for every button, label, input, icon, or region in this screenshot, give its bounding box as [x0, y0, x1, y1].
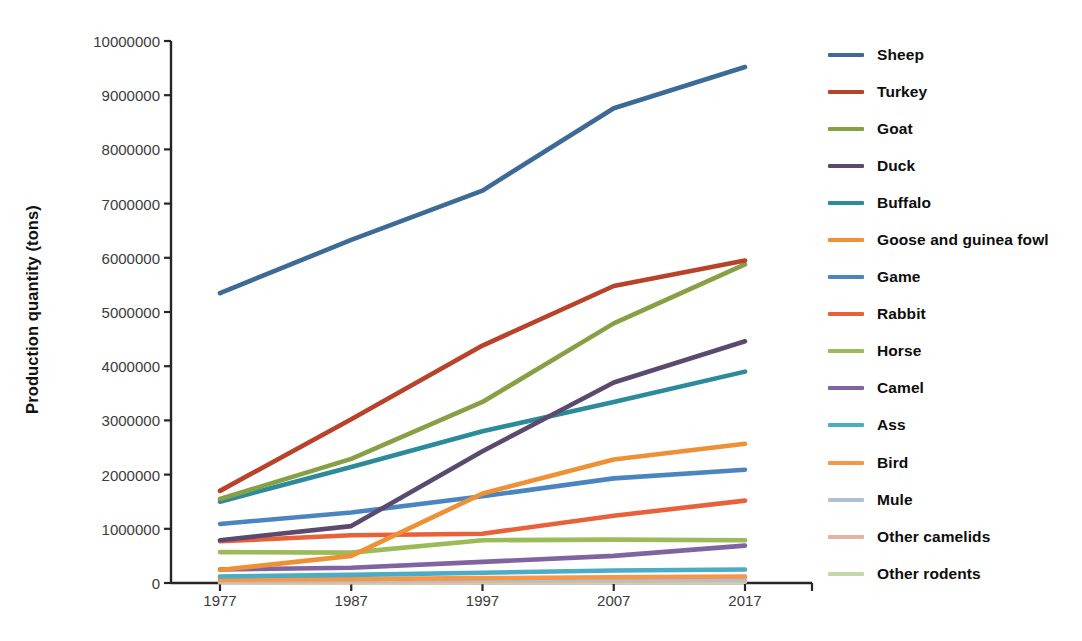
- series-line-goat: [220, 264, 745, 499]
- series-line-buffalo: [220, 372, 745, 502]
- legend-item[interactable]: Other camelids: [828, 518, 1080, 555]
- legend-item-label: Horse: [877, 342, 921, 360]
- legend-item[interactable]: Bird: [828, 444, 1080, 481]
- legend-item-label: Camel: [877, 379, 924, 397]
- legend-color-swatch-icon: [828, 201, 864, 205]
- legend-color-swatch-icon: [828, 238, 864, 242]
- y-axis-tick-label: 4000000: [52, 358, 160, 375]
- legend-item-label: Other camelids: [877, 528, 990, 546]
- legend-item[interactable]: Horse: [828, 333, 1080, 370]
- y-axis-tick-label: 7000000: [52, 195, 160, 212]
- legend-color-swatch-icon: [828, 572, 864, 576]
- legend-color-swatch-icon: [828, 164, 864, 168]
- x-axis-tick-label: 1997: [438, 592, 528, 609]
- legend-color-swatch-icon: [828, 90, 864, 94]
- y-axis-tick-label: 5000000: [52, 304, 160, 321]
- legend-item-label: Duck: [877, 157, 915, 175]
- chart-legend: SheepTurkeyGoatDuckBuffaloGoose and guin…: [828, 36, 1080, 592]
- legend-item[interactable]: Camel: [828, 370, 1080, 407]
- legend-color-swatch-icon: [828, 275, 864, 279]
- legend-item-label: Game: [877, 268, 920, 286]
- series-line-sheep: [220, 67, 745, 293]
- legend-color-swatch-icon: [828, 535, 864, 539]
- y-axis-tick-label: 9000000: [52, 87, 160, 104]
- series-line-game: [220, 470, 745, 524]
- legend-item-label: Goat: [877, 120, 913, 138]
- y-axis-tick-label: 2000000: [52, 466, 160, 483]
- legend-color-swatch-icon: [828, 386, 864, 390]
- legend-item-label: Bird: [877, 454, 908, 472]
- legend-item[interactable]: Sheep: [828, 36, 1080, 73]
- legend-item[interactable]: Ass: [828, 407, 1080, 444]
- series-line-turkey: [220, 261, 745, 491]
- legend-item[interactable]: Goose and guinea fowl: [828, 221, 1080, 258]
- legend-item-label: Mule: [877, 491, 913, 509]
- y-axis-tick-label: 1000000: [52, 520, 160, 537]
- x-axis-tick-label: 1987: [306, 592, 396, 609]
- legend-item[interactable]: Goat: [828, 110, 1080, 147]
- legend-item[interactable]: Other rodents: [828, 555, 1080, 592]
- legend-color-swatch-icon: [828, 498, 864, 502]
- legend-item-label: Other rodents: [877, 565, 981, 583]
- y-axis-tick-label: 6000000: [52, 249, 160, 266]
- legend-item[interactable]: Duck: [828, 147, 1080, 184]
- legend-item-label: Sheep: [877, 46, 924, 64]
- legend-item[interactable]: Turkey: [828, 73, 1080, 110]
- legend-color-swatch-icon: [828, 423, 864, 427]
- legend-color-swatch-icon: [828, 127, 864, 131]
- line-chart: Production quantity (tons) 0100000020000…: [0, 0, 1082, 641]
- x-axis-tick-label: 2007: [569, 592, 659, 609]
- legend-color-swatch-icon: [828, 53, 864, 57]
- legend-item-label: Turkey: [877, 83, 927, 101]
- legend-color-swatch-icon: [828, 461, 864, 465]
- y-axis-tick-label: 3000000: [52, 412, 160, 429]
- series-line-rabbit: [220, 501, 745, 542]
- legend-item-label: Ass: [877, 416, 906, 434]
- y-axis-tick-labels: 0100000020000003000000400000050000006000…: [0, 0, 160, 641]
- legend-item[interactable]: Mule: [828, 481, 1080, 518]
- legend-item-label: Rabbit: [877, 305, 926, 323]
- x-axis-tick-label: 1977: [175, 592, 265, 609]
- y-axis-tick-label: 0: [52, 575, 160, 592]
- legend-item-label: Goose and guinea fowl: [877, 231, 1049, 249]
- legend-color-swatch-icon: [828, 349, 864, 353]
- legend-item[interactable]: Game: [828, 259, 1080, 296]
- y-axis-tick-label: 8000000: [52, 141, 160, 158]
- legend-item[interactable]: Buffalo: [828, 184, 1080, 221]
- legend-item-label: Buffalo: [877, 194, 931, 212]
- series-line-camel: [220, 546, 745, 570]
- y-axis-tick-label: 10000000: [52, 33, 160, 50]
- legend-color-swatch-icon: [828, 312, 864, 316]
- x-axis-tick-label: 2017: [700, 592, 790, 609]
- legend-item[interactable]: Rabbit: [828, 296, 1080, 333]
